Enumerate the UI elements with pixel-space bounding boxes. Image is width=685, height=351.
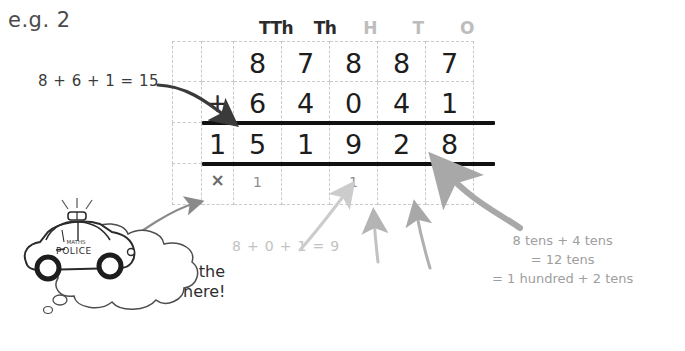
grid-cell-r2-c5[interactable]: 0 (330, 82, 378, 123)
grid-cell-r2-c2[interactable]: + (202, 82, 234, 123)
speech-bubble-line1-pre: Do (97, 262, 124, 281)
addend-row-1-digit: 7 (282, 48, 329, 79)
grid-cell-r1-c6[interactable]: 8 (378, 41, 426, 82)
worksheet-page: e.g. 2 TTh Th H T O 87887+64041151928×11… (0, 0, 685, 351)
grid-cell-r1-c1[interactable] (172, 41, 202, 82)
place-value-grid: 87887+64041151928×11 (172, 41, 495, 221)
speech-bubble-line-2: carry digit here! (66, 282, 256, 302)
addend-row-1-digit: 7 (426, 48, 473, 79)
grid-cell-r3-c7[interactable]: 8 (426, 123, 474, 164)
answer-row-digit: 2 (378, 129, 425, 160)
addend-row-1-digit: 8 (234, 48, 281, 79)
grid-cell-r4-c4[interactable] (282, 164, 330, 205)
answer-row-digit: 5 (234, 129, 281, 160)
column-header-o: O (447, 18, 487, 38)
grid-cell-r2-c3[interactable]: 6 (234, 82, 282, 123)
speech-bubble-line1-emph: NOT (124, 262, 162, 281)
speech-bubble-line-1: Do NOT put the (66, 262, 256, 282)
grid-cell-r3-c5[interactable]: 9 (330, 123, 378, 164)
answer-row-digit: 9 (330, 129, 377, 160)
grid-cell-r2-c1[interactable] (172, 82, 202, 123)
annotation-right-line-3: = 1 hundred + 2 tens (492, 270, 633, 289)
police-car-body-label: POLICE (56, 246, 92, 256)
answer-row-digit: 1 (282, 129, 329, 160)
grid-cell-r1-c3[interactable]: 8 (234, 41, 282, 82)
plus-operator: + (202, 87, 233, 118)
annotation-right-line-2: = 12 tens (492, 251, 633, 270)
carry-cross-mark: × (202, 170, 233, 190)
answer-row-digit: 1 (202, 129, 233, 160)
grid-cell-r4-c7[interactable] (426, 164, 474, 205)
operator-row-digit: 1 (426, 88, 473, 119)
grid-cell-r4-c1[interactable] (172, 164, 202, 205)
column-header-t: T (398, 18, 438, 38)
annotation-middle-working: 8 + 0 + 1 = 9 (232, 238, 340, 254)
operator-row-digit: 6 (234, 88, 281, 119)
grid-cell-r3-c6[interactable]: 2 (378, 123, 426, 164)
annotation-right-line-1: 8 tens + 4 tens (492, 232, 633, 251)
grid-cell-r2-c6[interactable]: 4 (378, 82, 426, 123)
arrow-to-carry-one-hundreds (374, 219, 378, 262)
answer-rule-top (202, 121, 495, 125)
operator-row-digit: 0 (330, 88, 377, 119)
grid-cell-r1-c5[interactable]: 8 (330, 41, 378, 82)
grid-cell-r1-c2[interactable] (202, 41, 234, 82)
grid-cell-r1-c7[interactable]: 7 (426, 41, 474, 82)
grid-cell-r4-c5[interactable]: 1 (330, 164, 378, 205)
grid-cell-r4-c6[interactable] (378, 164, 426, 205)
annotation-left-working: 8 + 6 + 1 = 15 (38, 72, 159, 90)
carry-digit: 1 (234, 174, 281, 190)
operator-row-digit: 4 (282, 88, 329, 119)
answer-rule-bottom (202, 162, 495, 166)
grid-cell-r2-c4[interactable]: 4 (282, 82, 330, 123)
grid-cell-r4-c3[interactable]: 1 (234, 164, 282, 205)
answer-row-digit: 8 (426, 129, 473, 160)
page-title: e.g. 2 (8, 8, 71, 32)
addend-row-1-digit: 8 (330, 48, 377, 79)
column-header-tth: TTh (253, 18, 299, 38)
grid-cell-r1-c4[interactable]: 7 (282, 41, 330, 82)
police-car-roof-label: MATHS (66, 239, 86, 245)
speech-bubble-text: Do NOT put the carry digit here! (66, 262, 256, 302)
column-header-th: Th (305, 18, 345, 38)
operator-row-digit: 4 (378, 88, 425, 119)
grid-cell-r3-c4[interactable]: 1 (282, 123, 330, 164)
annotation-right-working: 8 tens + 4 tens = 12 tens = 1 hundred + … (492, 232, 633, 289)
grid-cell-r3-c2[interactable]: 1 (202, 123, 234, 164)
grid-cell-r3-c3[interactable]: 5 (234, 123, 282, 164)
grid-cell-r4-c2[interactable]: × (202, 164, 234, 205)
column-header-h: H (350, 18, 390, 38)
carry-digit: 1 (330, 174, 377, 190)
speech-bubble-line1-post: put the (162, 262, 225, 281)
grid-cell-r3-c1[interactable] (172, 123, 202, 164)
addend-row-1-digit: 8 (378, 48, 425, 79)
grid-cell-r2-c7[interactable]: 1 (426, 82, 474, 123)
